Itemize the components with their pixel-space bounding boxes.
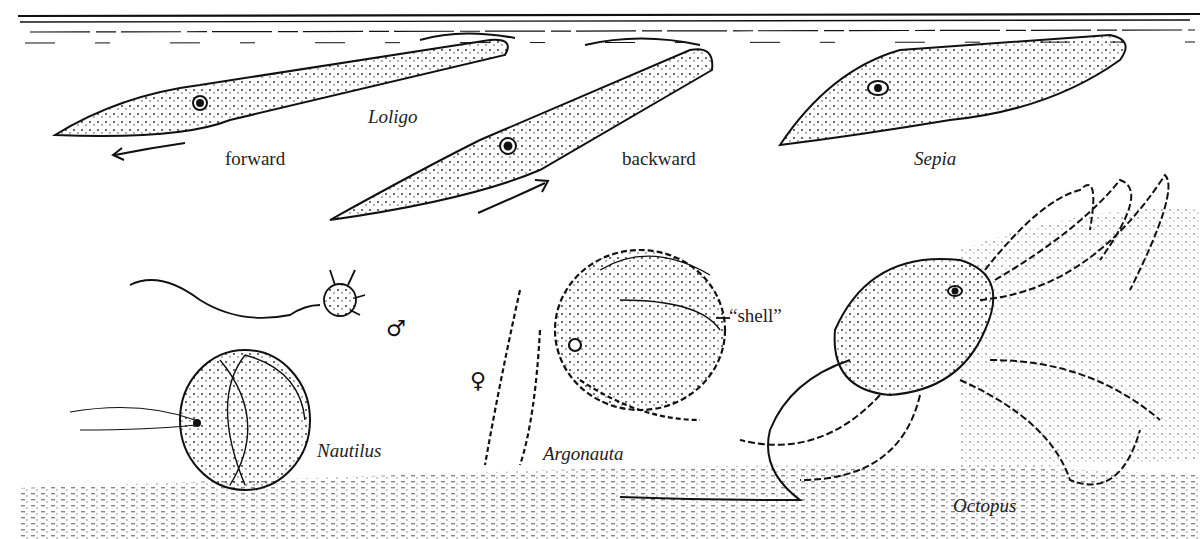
label-sepia: Sepia <box>914 148 956 170</box>
label-nautilus: Nautilus <box>317 440 381 462</box>
label-forward: forward <box>225 148 285 170</box>
nautilus-illustration <box>70 350 310 490</box>
label-shell: “shell” <box>729 305 782 327</box>
argonauta-illustration <box>485 250 730 465</box>
label-octopus: Octopus <box>953 495 1016 517</box>
forward-arrow <box>115 143 185 155</box>
water-surface <box>18 14 1200 43</box>
female-symbol-icon: ♀ <box>470 368 486 393</box>
male-symbol-icon: ♂ <box>386 316 406 341</box>
male-argonaut-illustration <box>130 270 365 318</box>
label-loligo: Loligo <box>368 106 418 128</box>
label-argonauta: Argonauta <box>543 443 624 465</box>
loligo-forward-illustration <box>55 33 515 136</box>
label-backward: backward <box>622 148 696 170</box>
sepia-illustration <box>780 35 1126 145</box>
